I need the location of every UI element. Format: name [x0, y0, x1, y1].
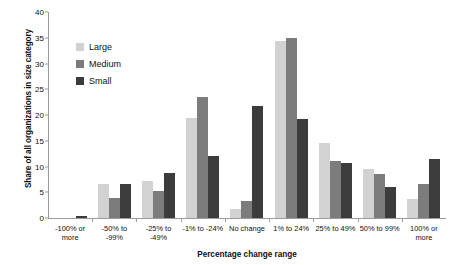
x-tick-label: 50% to 99% [358, 224, 402, 242]
x-tick-label: -1% to -24% [181, 224, 225, 242]
x-tick-label: 25% to 49% [313, 224, 357, 242]
x-tick-label: No change [225, 224, 269, 242]
bar-medium [330, 161, 341, 218]
x-tick-mark [136, 218, 137, 222]
x-tick-label: 1% to 24% [269, 224, 313, 242]
bar-medium [109, 198, 120, 218]
bar-small [208, 156, 219, 218]
y-axis-title: Share of all organizations in size categ… [24, 9, 33, 209]
legend-swatch-icon [76, 43, 84, 51]
bar-large [275, 41, 286, 218]
bar-small [429, 159, 440, 218]
x-tick-label: 100% or more [402, 224, 446, 242]
bar-small [76, 216, 87, 218]
legend-item: Medium [76, 55, 121, 72]
x-axis-labels: -100% or more-50% to -99%-25% to -49%-1%… [48, 224, 446, 242]
x-tick-mark [313, 218, 314, 222]
y-tick-label: 0 [40, 214, 44, 223]
x-tick-mark [92, 218, 93, 222]
legend-label: Large [89, 42, 112, 52]
x-tick-mark [181, 218, 182, 222]
x-tick-mark [402, 218, 403, 222]
bar-large [319, 143, 330, 218]
bar-small [120, 184, 131, 219]
bar-small [297, 119, 308, 218]
bar-group [225, 12, 269, 218]
y-tick-label: 40 [35, 8, 44, 17]
bar-large [363, 169, 374, 218]
bar-group [358, 12, 402, 218]
x-tick-mark [358, 218, 359, 222]
y-tick-label: 35 [35, 33, 44, 42]
bar-small [252, 106, 263, 218]
legend: LargeMediumSmall [76, 38, 121, 89]
x-tick-label: -25% to -49% [136, 224, 180, 242]
bar-medium [241, 201, 252, 218]
bar-group [402, 12, 446, 218]
legend-item: Small [76, 72, 121, 89]
bar-medium [197, 97, 208, 218]
y-tick-label: 30 [35, 59, 44, 68]
x-axis-title: Percentage change range [48, 250, 446, 259]
bar-small [341, 163, 352, 218]
legend-item: Large [76, 38, 121, 55]
bar-group [269, 12, 313, 218]
bar-group [313, 12, 357, 218]
bar-large [142, 181, 153, 218]
legend-swatch-icon [76, 60, 84, 68]
x-tick-mark [225, 218, 226, 222]
bar-small [164, 173, 175, 218]
y-tick-label: 25 [35, 85, 44, 94]
x-tick-label: -50% to -99% [92, 224, 136, 242]
bar-large [407, 199, 418, 218]
legend-swatch-icon [76, 77, 84, 85]
y-tick-label: 10 [35, 162, 44, 171]
bar-group [181, 12, 225, 218]
bar-group [136, 12, 180, 218]
bar-large [98, 184, 109, 218]
y-tick-label: 15 [35, 136, 44, 145]
x-tick-label: -100% or more [48, 224, 92, 242]
bar-large [186, 118, 197, 218]
y-tick-label: 5 [40, 188, 44, 197]
bar-medium [286, 38, 297, 218]
bar-small [385, 187, 396, 218]
bar-medium [418, 184, 429, 219]
legend-label: Medium [89, 59, 121, 69]
y-tick-label: 20 [35, 111, 44, 120]
x-tick-mark [269, 218, 270, 222]
bar-medium [374, 174, 385, 218]
bar-medium [153, 191, 164, 218]
bar-large [230, 209, 241, 218]
x-axis-line [48, 218, 446, 219]
bar-chart: Share of all organizations in size categ… [0, 0, 453, 265]
legend-label: Small [89, 76, 112, 86]
